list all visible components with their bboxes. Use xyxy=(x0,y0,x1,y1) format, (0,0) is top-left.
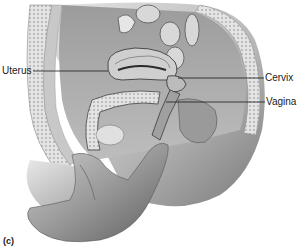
anatomy-figure: Uterus Cervix Vagina (c) xyxy=(0,0,307,251)
label-uterus: Uterus xyxy=(2,65,31,77)
panel-tag: (c) xyxy=(3,236,14,246)
pelvic-sagittal-illustration xyxy=(0,0,307,251)
label-cervix: Cervix xyxy=(265,72,293,84)
label-vagina: Vagina xyxy=(266,96,296,108)
